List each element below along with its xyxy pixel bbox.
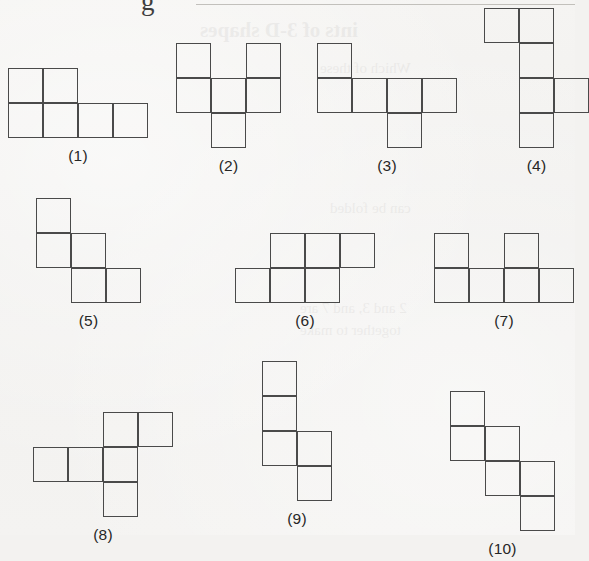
net-figure-6: (6)	[235, 233, 375, 333]
net-figure-1: (1)	[8, 68, 148, 168]
net-square	[539, 268, 574, 303]
figure-caption: (6)	[235, 312, 375, 330]
net-square	[106, 268, 141, 303]
figure-caption: (9)	[262, 510, 332, 528]
net-square	[103, 447, 138, 482]
net-square	[519, 8, 554, 43]
net-square	[422, 78, 457, 113]
net-square	[554, 78, 589, 113]
net-grid	[317, 43, 457, 148]
net-square	[33, 447, 68, 482]
net-square	[450, 391, 485, 426]
net-square	[262, 396, 297, 431]
figure-caption: (3)	[317, 157, 457, 175]
net-square	[317, 78, 352, 113]
net-square	[504, 233, 539, 268]
net-grid	[235, 233, 375, 303]
net-square	[43, 68, 78, 103]
figure-caption: (10)	[450, 540, 555, 558]
net-square	[103, 482, 138, 517]
net-square	[36, 198, 71, 233]
net-square	[8, 103, 43, 138]
net-square	[36, 233, 71, 268]
net-square	[138, 412, 173, 447]
net-figure-10: (10)	[450, 391, 555, 561]
net-square	[305, 233, 340, 268]
net-square	[504, 268, 539, 303]
figure-caption: (1)	[8, 147, 148, 165]
net-square	[113, 103, 148, 138]
figure-caption: (7)	[434, 312, 574, 330]
net-square	[8, 68, 43, 103]
net-square	[246, 43, 281, 78]
net-square	[68, 447, 103, 482]
net-square	[450, 426, 485, 461]
net-square	[519, 113, 554, 148]
net-square	[484, 8, 519, 43]
net-square	[262, 361, 297, 396]
net-grid	[33, 412, 173, 517]
net-grid	[176, 43, 281, 148]
net-square	[485, 461, 520, 496]
net-square	[103, 412, 138, 447]
net-square	[317, 43, 352, 78]
net-square	[43, 103, 78, 138]
net-grid	[450, 391, 555, 531]
net-square	[305, 268, 340, 303]
net-square	[520, 461, 555, 496]
net-square	[340, 233, 375, 268]
net-figure-4: (4)	[484, 8, 589, 178]
net-figure-8: (8)	[33, 412, 173, 547]
net-square	[211, 78, 246, 113]
net-square	[71, 268, 106, 303]
net-grid	[484, 8, 589, 148]
net-square	[387, 113, 422, 148]
net-figure-5: (5)	[36, 198, 141, 333]
net-square	[176, 78, 211, 113]
net-figure-3: (3)	[317, 43, 457, 178]
net-grid	[434, 233, 574, 303]
net-figure-2: (2)	[176, 43, 281, 178]
net-square	[71, 233, 106, 268]
net-square	[519, 78, 554, 113]
net-square	[520, 496, 555, 531]
net-grid	[36, 198, 141, 303]
figure-caption: (2)	[176, 157, 281, 175]
net-square	[78, 103, 113, 138]
net-square	[270, 268, 305, 303]
net-square	[262, 431, 297, 466]
figure-caption: (5)	[36, 312, 141, 330]
net-grid	[262, 361, 332, 501]
net-figure-9: (9)	[262, 361, 332, 531]
net-square	[469, 268, 504, 303]
net-square	[176, 43, 211, 78]
figure-caption: (4)	[484, 157, 589, 175]
net-square	[270, 233, 305, 268]
net-square	[387, 78, 422, 113]
net-square	[297, 466, 332, 501]
net-square	[235, 268, 270, 303]
net-square	[485, 426, 520, 461]
net-square	[246, 78, 281, 113]
net-square	[297, 431, 332, 466]
net-square	[211, 113, 246, 148]
net-square	[434, 268, 469, 303]
figure-caption: (8)	[33, 526, 173, 544]
net-grid	[8, 68, 148, 138]
net-square	[519, 43, 554, 78]
net-figure-7: (7)	[434, 233, 574, 333]
net-square	[434, 233, 469, 268]
net-square	[352, 78, 387, 113]
